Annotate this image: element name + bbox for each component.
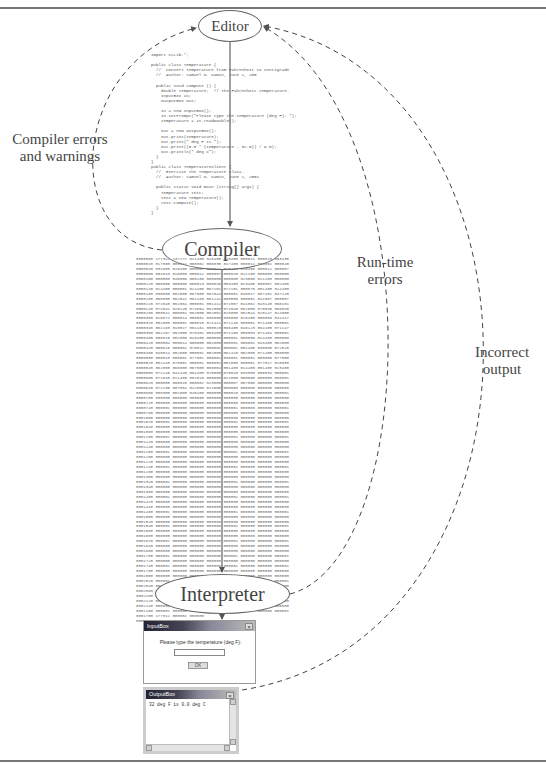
- incorrect-output-label: Incorrect output: [466, 344, 538, 378]
- output-box-titlebar[interactable]: OutputBox ×: [146, 690, 236, 699]
- input-box-title: InputBox: [147, 623, 169, 629]
- temperature-input[interactable]: [174, 649, 225, 656]
- horizontal-scrollbar[interactable]: [146, 744, 230, 751]
- java-source-code: import CSLib.*; public class Temperature…: [151, 53, 297, 216]
- close-icon[interactable]: ×: [245, 623, 253, 630]
- editor-label: Editor: [211, 18, 249, 35]
- editor-node: Editor: [198, 10, 262, 42]
- interpreter-label: Interpreter: [180, 583, 264, 606]
- output-text: 32 deg F is 0.0 deg C: [149, 702, 206, 707]
- input-box-titlebar[interactable]: InputBox ×: [144, 621, 255, 631]
- bytecode-dump: 0000000 177312 137272 021400 026400 0104…: [136, 257, 289, 624]
- scroll-down-arrow-icon[interactable]: [230, 739, 236, 745]
- input-box-window: InputBox × Please type the temperature (…: [143, 620, 256, 684]
- compiler-errors-label: Compiler errors and warnings: [0, 131, 120, 165]
- output-box-window: OutputBox × 32 deg F is 0.0 deg C: [143, 687, 239, 754]
- vertical-scrollbar[interactable]: [229, 699, 236, 745]
- runtime-errors-label: Run-time errors: [353, 254, 417, 288]
- output-box-title: OutputBox: [149, 691, 175, 697]
- interpreter-node: Interpreter: [155, 574, 290, 614]
- scroll-up-arrow-icon[interactable]: [230, 699, 236, 705]
- input-prompt: Please type the temperature (deg F):: [144, 639, 257, 645]
- scroll-left-arrow-icon[interactable]: [146, 745, 152, 751]
- close-icon[interactable]: ×: [226, 692, 234, 699]
- ok-button[interactable]: OK: [188, 662, 208, 669]
- bottom-border-rule: [0, 760, 546, 762]
- scroll-right-arrow-icon[interactable]: [224, 745, 230, 751]
